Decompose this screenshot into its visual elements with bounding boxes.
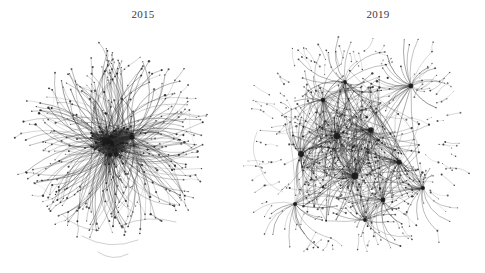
network-graph-2019: [243, 0, 485, 273]
network-comparison-figure: 2015 2019: [0, 0, 485, 273]
panel-2015: 2015: [0, 0, 242, 273]
panel-2019: 2019: [243, 0, 485, 273]
network-graph-2015: [0, 0, 242, 273]
